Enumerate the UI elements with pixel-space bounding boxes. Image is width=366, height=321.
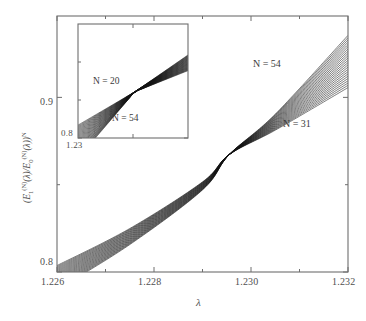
y-label-sup1: (N) [20,182,27,191]
y-tick-label-0: 0.8 [40,256,53,267]
x-axis-title: λ [196,296,201,308]
y-label-sup3: N [20,132,27,137]
x-tick-label-1: 1.228 [138,276,162,287]
y-label-mid2: (λ)) [22,137,32,151]
annotation-n-20-inset: N = 20 [93,76,119,86]
y-label-open: (E [22,194,32,203]
figure-panel: 0.8 0.9 1.226 1.228 1.230 1.232 λ (E1(N)… [0,0,366,321]
annotation-n-54-main: N = 54 [253,58,281,69]
y-tick-label-1: 0.9 [40,96,53,107]
annotation-n-31-main: N = 31 [283,118,311,129]
annotation-n-54-inset: N = 54 [112,113,138,123]
y-label-sup2: (N) [20,151,27,160]
y-axis-title-text: (E1(N)(λ)/E0(N)(λ))N [22,132,32,203]
inset-x-tick-label-0: 1.23 [66,140,83,150]
x-tick-label-2: 1.230 [235,276,259,287]
inset-y-tick-label-0: 0.8 [61,128,73,138]
y-axis-title: (E1(N)(λ)/E0(N)(λ))N [2,95,28,205]
x-tick-label-3: 1.232 [332,276,356,287]
y-label-sub2: 0 [27,160,34,163]
y-label-mid1: (λ)/E [22,163,32,182]
y-label-sub1: 1 [27,191,34,194]
x-tick-label-0: 1.226 [41,276,65,287]
plot-canvas [0,0,366,321]
